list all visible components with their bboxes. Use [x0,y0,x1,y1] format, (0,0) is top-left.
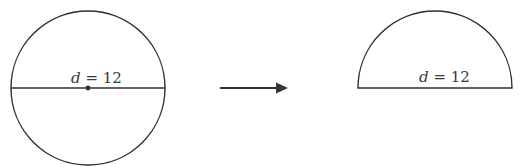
semicircle-diameter-label: d = 12 [419,68,470,86]
full-circle-figure: d = 12 [11,11,165,165]
circle-diameter-label: d = 12 [71,69,122,87]
circle-to-semicircle-diagram: d = 12 d = 12 [0,0,522,168]
semicircle-figure: d = 12 [358,11,512,88]
transform-arrow [220,83,288,94]
arrow-right-icon [276,83,288,94]
